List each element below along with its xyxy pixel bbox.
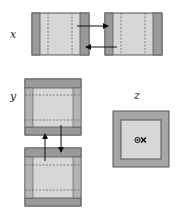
label-y: y bbox=[9, 90, 17, 103]
label-z: z bbox=[133, 89, 140, 102]
y-frame-top bbox=[25, 79, 81, 135]
z-frame bbox=[113, 111, 169, 167]
x-frame-left bbox=[32, 13, 89, 55]
label-x: x bbox=[10, 28, 17, 41]
diagram: x y z bbox=[0, 0, 182, 215]
y-frame-bottom bbox=[25, 148, 81, 206]
x-frame-right bbox=[105, 13, 162, 55]
